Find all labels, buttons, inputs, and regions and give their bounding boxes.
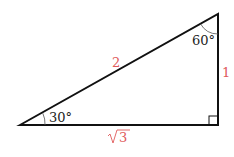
- right-angle-marker: [209, 116, 218, 125]
- side-label-vertical: 1: [222, 65, 230, 80]
- angle-label-60: 60°: [192, 33, 215, 48]
- side-label-hypotenuse: 2: [112, 55, 120, 70]
- angle-label-30: 30°: [49, 110, 72, 125]
- side-label-base: 3: [108, 130, 130, 145]
- sqrt-radicand: 3: [119, 130, 127, 145]
- angle-arc-30: [43, 113, 45, 125]
- triangle-diagram: 30° 60° 2 1 3: [0, 0, 234, 157]
